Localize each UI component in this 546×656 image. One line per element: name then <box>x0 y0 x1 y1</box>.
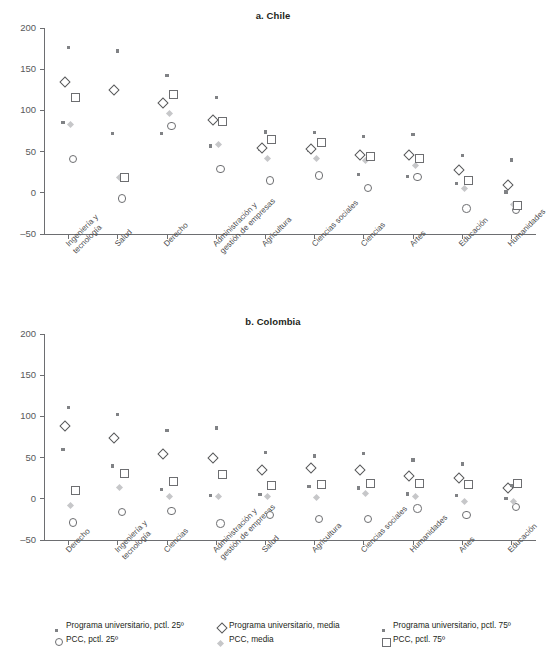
open-square-icon <box>267 481 276 490</box>
plot-area-colombia: –50050100150200DerechoIngeniería y tecno… <box>44 334 536 540</box>
small-filled-square-icon <box>116 49 119 52</box>
open-circle-icon <box>462 511 470 519</box>
open-square-icon <box>366 479 375 488</box>
clipped-header-text: · · <box>0 0 546 6</box>
legend-marker <box>55 624 58 634</box>
small-filled-square-icon <box>313 131 316 134</box>
small-filled-square-icon <box>215 96 218 99</box>
x-tick-label: Salud <box>113 228 134 249</box>
small-filled-square-icon <box>215 426 218 429</box>
light-filled-diamond-icon <box>215 493 222 500</box>
open-diamond-icon <box>207 453 218 464</box>
small-filled-square-icon <box>258 493 261 496</box>
y-tick-label: 0 <box>0 187 36 198</box>
small-filled-square-icon <box>307 485 310 488</box>
small-filled-square-icon <box>362 135 365 138</box>
light-filled-diamond-icon <box>461 498 468 505</box>
light-filled-diamond-icon <box>362 490 369 497</box>
open-diamond-icon <box>305 463 316 474</box>
open-diamond-icon <box>59 421 70 432</box>
y-axis-line <box>44 334 45 540</box>
small-filled-square-icon <box>313 454 316 457</box>
legend-marker <box>382 638 391 649</box>
small-filled-square-icon <box>116 413 119 416</box>
open-circle-icon <box>413 173 421 181</box>
open-square-icon <box>169 90 178 99</box>
open-diamond-icon <box>216 622 227 633</box>
legend-label: Programa universitario, media <box>229 620 340 630</box>
light-filled-diamond-icon <box>217 640 224 647</box>
open-diamond-icon <box>453 472 464 483</box>
open-diamond-icon <box>404 149 415 160</box>
figure-root: · · a. Chile –50050100150200Ingeniería y… <box>0 0 546 656</box>
light-filled-diamond-icon <box>67 502 74 509</box>
open-circle-icon <box>118 194 126 202</box>
open-diamond-icon <box>453 164 464 175</box>
plot-area-chile: –50050100150200Ingeniería y tecnologíaSa… <box>44 28 536 234</box>
x-tick-label: Humanidades <box>408 513 450 555</box>
small-filled-square-icon <box>67 406 70 409</box>
open-square-icon <box>415 479 424 488</box>
y-tick-label: 200 <box>0 328 36 339</box>
panel-title-colombia: b. Colombia <box>0 316 546 327</box>
light-filled-diamond-icon <box>165 493 172 500</box>
legend-marker <box>218 624 226 634</box>
small-filled-square-icon <box>111 132 114 135</box>
small-filled-square-icon <box>160 488 163 491</box>
open-square-icon <box>513 201 522 210</box>
y-tick-label: 150 <box>0 369 36 380</box>
y-tick-label: 50 <box>0 452 36 463</box>
open-square-icon <box>464 480 473 489</box>
x-tick-label: Educación <box>457 216 490 249</box>
open-square-icon <box>366 152 375 161</box>
legend-label: PCC, pctl. 75º <box>393 634 445 644</box>
legend-label: Programa universitario, pctl. 25º <box>66 620 184 630</box>
x-tick-label: Agricultura <box>310 521 344 555</box>
y-tick <box>40 540 44 541</box>
small-filled-square-icon <box>406 492 409 495</box>
light-filled-diamond-icon <box>116 484 123 491</box>
legend-label: PCC, media <box>229 634 274 644</box>
open-square-icon <box>120 469 129 478</box>
small-filled-square-icon <box>461 462 464 465</box>
small-filled-square-icon <box>510 158 513 161</box>
legend-marker <box>55 638 63 648</box>
y-tick-label: 100 <box>0 104 36 115</box>
open-circle-icon <box>315 515 323 523</box>
y-tick-label: 200 <box>0 22 36 33</box>
small-filled-square-icon <box>362 452 365 455</box>
small-filled-square-icon <box>455 182 458 185</box>
open-square-icon <box>169 477 178 486</box>
open-square-icon <box>513 479 522 488</box>
y-tick <box>40 151 44 152</box>
small-filled-square-icon <box>357 486 360 489</box>
small-filled-square-icon <box>455 494 458 497</box>
open-circle-icon <box>364 515 372 523</box>
legend-label: Programa universitario, pctl. 75º <box>393 620 511 630</box>
y-tick <box>40 334 44 335</box>
open-square-icon <box>218 117 227 126</box>
light-filled-diamond-icon <box>411 493 418 500</box>
x-tick-label: Humanidades <box>506 207 546 249</box>
small-filled-square-icon <box>111 464 114 467</box>
open-diamond-icon <box>207 115 218 126</box>
open-square-icon <box>218 470 227 479</box>
light-filled-diamond-icon <box>165 110 172 117</box>
panel-chile: a. Chile –50050100150200Ingeniería y tec… <box>0 10 546 310</box>
x-tick-label: Ciencias sociales <box>359 504 409 554</box>
small-filled-square-icon <box>160 132 163 135</box>
open-circle-icon <box>167 122 175 130</box>
open-circle-icon <box>266 511 274 519</box>
open-diamond-icon <box>109 432 120 443</box>
open-circle-icon <box>216 519 224 527</box>
open-diamond-icon <box>404 470 415 481</box>
open-diamond-icon <box>256 143 267 154</box>
open-circle-icon <box>266 176 274 184</box>
open-circle-icon <box>55 638 63 646</box>
open-square-icon <box>464 176 473 185</box>
light-filled-diamond-icon <box>215 140 222 147</box>
y-tick <box>40 498 44 499</box>
y-tick-label: 0 <box>0 493 36 504</box>
open-circle-icon <box>315 171 323 179</box>
y-tick <box>40 375 44 376</box>
